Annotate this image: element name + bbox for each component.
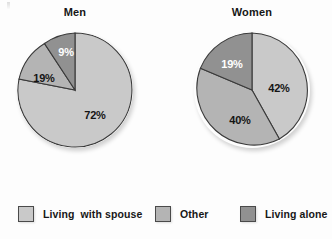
chart-women-label-other: 40% [229, 114, 250, 126]
chart-men-pie [17, 32, 133, 148]
legend-swatch-living-alone [240, 206, 256, 222]
chart-women-title: Women [194, 6, 310, 18]
chart-women-pie-svg [194, 32, 310, 148]
chart-women-label-living-alone: 19% [221, 58, 242, 70]
chart-women-pie-wrap: 42% 40% 19% [194, 32, 310, 148]
chart-men-pie-svg [17, 32, 133, 148]
legend-label-other: Other [180, 208, 209, 220]
chart-men-title: Men [17, 6, 133, 18]
chart-men: Men 72% 19% 9% [17, 6, 133, 156]
legend-swatch-living-with-spouse [18, 206, 34, 222]
chart-women-pie [194, 32, 310, 148]
chart-men-label-living-with-spouse: 72% [84, 109, 105, 121]
chart-men-label-living-alone: 9% [58, 46, 74, 58]
legend-item-other: Other [155, 206, 209, 222]
chart-men-pie-wrap: 72% 19% 9% [17, 32, 133, 148]
legend-item-living-alone: Living alone [240, 206, 327, 222]
scan-artifact [7, 2, 10, 9]
legend: Living with spouse Other Living alone [0, 200, 332, 232]
chart-women: Women 42% 40% 19% [194, 6, 310, 156]
pie-chart-figure: Men 72% 19% 9% Women [0, 0, 332, 239]
legend-label-living-alone: Living alone [265, 208, 327, 220]
chart-women-label-living-with-spouse: 42% [268, 82, 289, 94]
legend-item-living-with-spouse: Living with spouse [18, 206, 142, 222]
legend-label-living-with-spouse: Living with spouse [43, 208, 142, 220]
legend-swatch-other [155, 206, 171, 222]
chart-men-label-other: 19% [33, 72, 54, 84]
